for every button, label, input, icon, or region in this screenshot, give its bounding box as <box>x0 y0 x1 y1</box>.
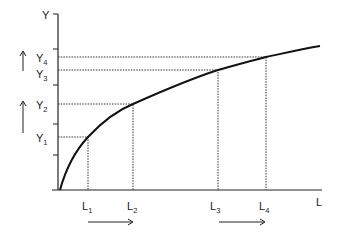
y-axis-ticks <box>53 49 58 155</box>
label-y1: Y1 <box>36 132 48 147</box>
y-axis-label: Y <box>42 9 50 21</box>
label-l1: L1 <box>82 200 92 215</box>
guide-lines <box>58 57 266 190</box>
label-y3: Y3 <box>36 68 48 83</box>
x-axis-label: L <box>316 196 322 208</box>
production-function-diagram: Y L Y4 Y3 Y2 Y1 L1 L2 L3 L4 <box>0 0 338 238</box>
arrow-up-icon <box>20 51 26 71</box>
production-curve <box>60 46 320 190</box>
label-l4: L4 <box>259 200 269 215</box>
label-y4: Y4 <box>36 52 48 67</box>
arrow-right-icon <box>88 219 133 225</box>
arrow-right-icon <box>219 219 265 225</box>
arrow-up-icon <box>20 101 26 133</box>
label-y2: Y2 <box>36 99 48 114</box>
label-l3: L3 <box>210 200 220 215</box>
label-l2: L2 <box>127 200 137 215</box>
